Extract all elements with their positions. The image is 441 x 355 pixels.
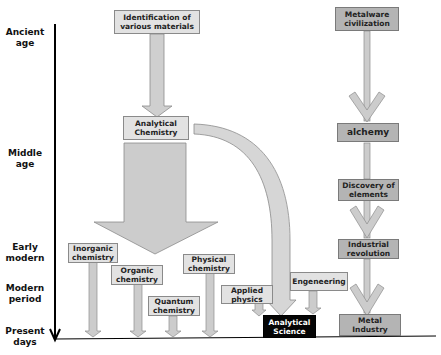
node-quantum-chemistry: Quantum chemistry xyxy=(148,296,200,316)
arrow-quantum-down xyxy=(165,316,181,337)
node-metal-industry: Metal Industry xyxy=(339,314,401,336)
node-alchemy: alchemy xyxy=(337,123,399,142)
node-metalware-civilization: Metalware civilization xyxy=(335,7,399,31)
node-engineering: Engeneering xyxy=(290,272,348,291)
node-identification: Identification of various materials xyxy=(114,10,200,34)
time-axis-baseline xyxy=(55,336,436,339)
arrow-inorganic-down xyxy=(85,262,101,337)
node-physical-chemistry: Physical chemistry xyxy=(183,254,235,274)
arrow-organic-down xyxy=(130,284,146,337)
arrow-identification-to-analytical xyxy=(142,34,172,117)
node-analytical-science: Analytical Science xyxy=(263,315,316,338)
stem-alchemy xyxy=(364,143,370,179)
node-applied-physics: Applied physics xyxy=(221,285,273,304)
arrow-physical-down xyxy=(202,273,218,337)
node-organic-chemistry: Organic chemistry xyxy=(111,265,163,285)
arrow-analytical-to-branches xyxy=(94,143,218,254)
node-inorganic-chemistry: Inorganic chemistry xyxy=(68,243,118,263)
node-discovery-of-elements: Discovery of elements xyxy=(338,179,399,201)
arrow-engineering-down xyxy=(305,291,321,314)
node-industrial-revolution: Industrial revolution xyxy=(338,239,399,259)
node-analytical-chemistry: Analytical Chemistry xyxy=(123,116,189,140)
